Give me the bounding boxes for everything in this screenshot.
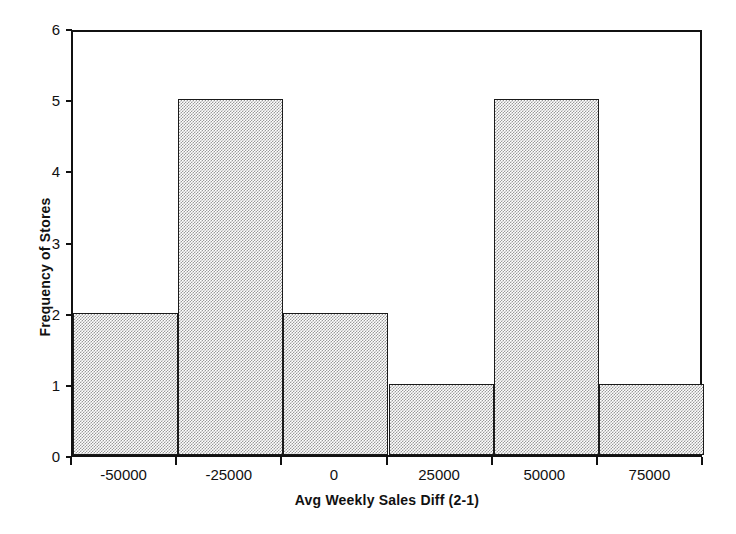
y-axis-tick-label: 0 bbox=[20, 449, 60, 464]
x-axis-tick-label: 75000 bbox=[589, 466, 709, 484]
histogram-bar bbox=[494, 99, 599, 455]
x-axis-tick-mark bbox=[701, 457, 703, 465]
y-axis-tick-label: 5 bbox=[20, 93, 60, 108]
x-axis-tick-mark bbox=[70, 457, 72, 465]
y-axis-tick-label: 4 bbox=[20, 164, 60, 179]
x-axis-tick-label: -25000 bbox=[169, 466, 289, 484]
x-axis-tick-mark bbox=[175, 457, 177, 465]
y-axis-tick-label: 1 bbox=[20, 378, 60, 393]
x-axis-tick-mark bbox=[596, 457, 598, 465]
bars-layer bbox=[73, 32, 700, 455]
y-axis-tick-label: 3 bbox=[20, 236, 60, 251]
histogram-bar bbox=[389, 384, 494, 455]
x-axis-tick-label: -50000 bbox=[64, 466, 184, 484]
histogram-bar bbox=[73, 313, 178, 455]
histogram-bar bbox=[178, 99, 283, 455]
x-axis-tick-mark bbox=[386, 457, 388, 465]
histogram-chart: Frequency of Stores 0123456 -50000-25000… bbox=[0, 0, 736, 534]
x-axis-tick-label: 25000 bbox=[379, 466, 499, 484]
x-axis-tick-mark bbox=[491, 457, 493, 465]
plot-area bbox=[71, 30, 702, 457]
x-axis-tick-label: 0 bbox=[274, 466, 394, 484]
histogram-bar bbox=[599, 384, 704, 455]
y-axis-tick-label: 2 bbox=[20, 307, 60, 322]
x-axis-tick-mark bbox=[280, 457, 282, 465]
y-axis-tick-label: 6 bbox=[20, 22, 60, 37]
histogram-bar bbox=[283, 313, 388, 455]
x-axis-tick-label: 50000 bbox=[484, 466, 604, 484]
x-axis-title: Avg Weekly Sales Diff (2-1) bbox=[71, 492, 703, 508]
